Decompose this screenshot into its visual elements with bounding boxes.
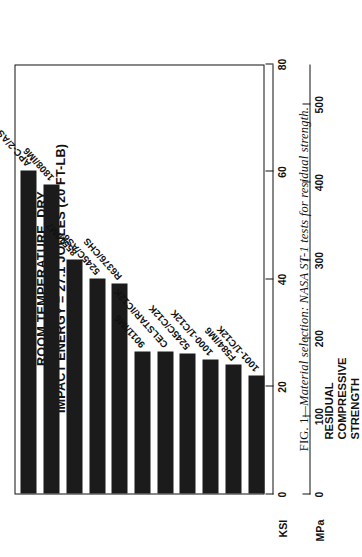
bar-slot: 8551/IM7 [66,63,82,493]
bar-slot: APC-2/AS4 [20,63,36,493]
figure-caption: FIG. 1—Material selection: NASA ST-1 tes… [296,0,311,557]
ksi-axis-tick [265,385,273,386]
y-axis-title-line-3: STRENGTH [348,9,361,439]
mpa-axis-unit: MPa [313,519,325,541]
bar [225,364,241,493]
ksi-axis-tick-label: 40 [276,273,287,285]
bar-slot: F584/IM6 [225,63,241,493]
ksi-axis-tick-label: 60 [276,166,287,178]
ksi-axis-tick-label: 80 [276,58,287,70]
bar [89,278,105,493]
ksi-axis-tick [265,278,273,279]
bar-slot: 9011/IM6 [134,63,150,493]
figure-caption-text: Material selection: NASA ST-1 tests for … [296,106,310,405]
figure-caption-dash: — [296,405,310,416]
ksi-axis-tick-label: 20 [276,381,287,393]
bar-series: APC-2/AS41808/IM68551/IM75245C/AS6R6376/… [13,63,263,493]
ksi-axis-tick [265,63,273,64]
ksi-axis-tick [265,170,273,171]
bar-slot: 1001-1/C12K [248,63,264,493]
y-axis-title: RESIDUAL COMPRESSIVE STRENGTH [322,9,362,439]
y-axis-title-line-1: RESIDUAL [322,9,335,439]
bar-slot: CELSTAR/IC12K [157,63,173,493]
ksi-axis-tick [265,493,273,494]
bar [20,171,36,494]
bar-slot: R6376/CHS [111,63,127,493]
ksi-axis-unit: KSI [276,519,288,537]
bar-slot: 5245C/AS6 [89,63,105,493]
bar-slot: 1808/IM6 [43,63,59,493]
bar [248,375,264,493]
bar [157,351,173,493]
y-axis-title-line-2: COMPRESSIVE [335,9,348,439]
bar-slot: 1000-1/C12K [202,63,218,493]
mpa-axis-tick-label: 0 [313,491,324,497]
bar [134,351,150,493]
figure-number: FIG. 1 [296,417,310,451]
bar [202,359,218,493]
chart-plot-area: ROOM TEMPERATURE, DRY IMPACT ENERGY = 27… [14,64,264,494]
bar [66,259,82,493]
ksi-axis-tick-label: 0 [276,491,287,497]
bar-slot: 5245C/C12K [179,63,195,493]
bar [179,353,195,493]
